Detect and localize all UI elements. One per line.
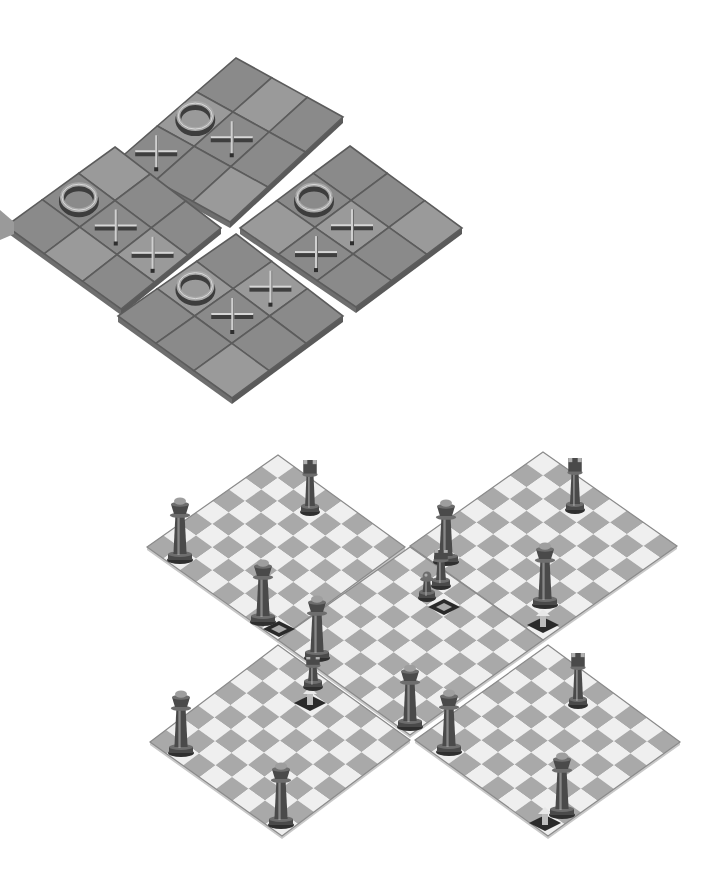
chess-boards [147, 452, 680, 839]
tictactoe-boards [0, 58, 462, 404]
game-illustration [0, 0, 721, 880]
